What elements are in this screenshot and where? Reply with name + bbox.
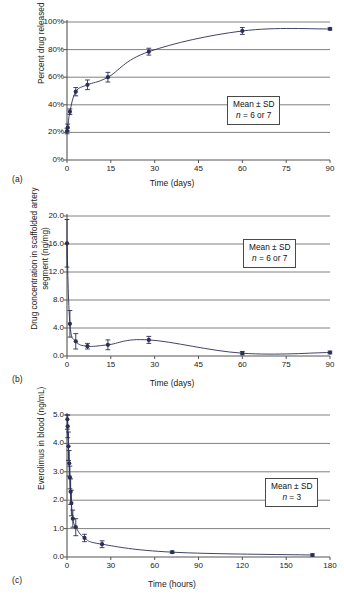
x-tick-label: 150: [273, 561, 299, 570]
data-point: [240, 29, 244, 33]
data-point: [100, 542, 104, 546]
x-tick-label: 30: [98, 561, 124, 570]
legend-n-value-c: = 3: [287, 492, 301, 502]
data-point: [170, 550, 174, 554]
panel-label-c: (c): [12, 575, 22, 585]
y-tick-label: 80%: [30, 45, 64, 54]
data-point: [74, 525, 78, 529]
y-tick-label: 5.0: [30, 410, 64, 419]
x-tick-label: 0: [54, 561, 80, 570]
series-line: [67, 28, 330, 131]
data-point: [69, 501, 73, 505]
x-tick-label: 15: [98, 360, 124, 369]
y-axis-label-b: Drug concentration in scaffolded artery …: [29, 176, 50, 342]
y-tick-label: 2.0: [30, 495, 64, 504]
legend-n-a: n = 6 or 7: [233, 110, 274, 121]
data-point: [85, 83, 89, 87]
x-tick-label: 60: [229, 360, 255, 369]
y-tick-label: 4.0: [30, 323, 64, 332]
data-point: [310, 553, 314, 557]
x-tick-label: 0: [54, 164, 80, 173]
y-tick-label: 16.0: [30, 239, 64, 248]
x-tick-label: 15: [98, 164, 124, 173]
data-point: [67, 461, 71, 465]
y-tick-label: 3.0: [30, 467, 64, 476]
y-tick-label: 60%: [30, 72, 64, 81]
legend-mean-sd-b: Mean ± SD: [249, 242, 290, 253]
x-tick-label: 75: [273, 360, 299, 369]
data-point: [66, 424, 70, 428]
data-point: [106, 343, 110, 347]
legend-mean-sd-a: Mean ± SD: [233, 99, 274, 110]
data-point: [147, 50, 151, 54]
x-tick-label: 120: [229, 561, 255, 570]
y-tick-label: 40%: [30, 100, 64, 109]
legend-box-b: Mean ± SD n = 6 or 7: [243, 239, 296, 268]
y-tick-label: 20.0: [30, 211, 64, 220]
data-point: [85, 344, 89, 348]
x-axis-label-b: Time (days): [0, 378, 344, 388]
data-point: [240, 351, 244, 355]
data-point: [82, 536, 86, 540]
chart-panel-a: Percent drug released Time (days) (a) Me…: [0, 0, 344, 196]
y-tick-label: 100%: [30, 17, 64, 26]
y-tick-label: 0%: [30, 155, 64, 164]
legend-mean-sd-c: Mean ± SD: [271, 481, 312, 492]
data-point: [65, 241, 69, 245]
data-point: [74, 339, 78, 343]
legend-box-c: Mean ± SD n = 3: [265, 478, 318, 507]
x-tick-label: 30: [142, 360, 168, 369]
x-axis-label-a: Time (days): [0, 178, 344, 188]
y-tick-label: 12.0: [30, 267, 64, 276]
x-tick-label: 0: [54, 360, 80, 369]
legend-n-value-b: = 6 or 7: [257, 253, 288, 263]
x-tick-label: 75: [273, 164, 299, 173]
chart-panel-c: Everolimus in blood (ng/mL) Time (hours)…: [0, 397, 344, 602]
legend-n-value-a: = 6 or 7: [241, 110, 272, 120]
data-point: [74, 90, 78, 94]
panel-label-b: (b): [12, 374, 23, 384]
y-tick-label: 4.0: [30, 438, 64, 447]
x-tick-label: 45: [186, 164, 212, 173]
y-tick-label: 0.0: [30, 552, 64, 561]
x-tick-label: 180: [317, 561, 343, 570]
x-tick-label: 45: [186, 360, 212, 369]
data-point: [106, 75, 110, 79]
data-point: [328, 350, 332, 354]
x-tick-label: 90: [317, 360, 343, 369]
x-tick-label: 60: [229, 164, 255, 173]
data-point: [147, 338, 151, 342]
data-point: [66, 125, 70, 129]
x-tick-label: 90: [186, 561, 212, 570]
legend-n-b: n = 6 or 7: [249, 253, 290, 264]
figure-drug-release-pharmacokinetics: Percent drug released Time (days) (a) Me…: [0, 0, 344, 602]
data-point: [66, 444, 70, 448]
chart-panel-b: Drug concentration in scaffolded artery …: [0, 196, 344, 397]
x-axis-label-c: Time (hours): [0, 579, 344, 589]
y-tick-label: 1.0: [30, 524, 64, 533]
legend-box-a: Mean ± SD n = 6 or 7: [227, 96, 280, 125]
x-tick-label: 60: [142, 561, 168, 570]
legend-n-c: n = 3: [271, 492, 312, 503]
x-tick-label: 30: [142, 164, 168, 173]
panel-label-a: (a): [12, 174, 23, 184]
data-point: [68, 110, 72, 114]
y-tick-label: 8.0: [30, 295, 64, 304]
x-tick-label: 90: [317, 164, 343, 173]
y-tick-label: 20%: [30, 127, 64, 136]
data-point: [68, 322, 72, 326]
data-point: [328, 27, 332, 31]
